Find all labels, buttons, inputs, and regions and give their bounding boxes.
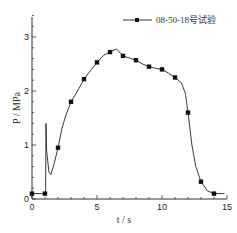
data-point-marker xyxy=(199,180,203,184)
line-chart: 0510150123 08-50-18号试验 t / s P / MPa xyxy=(0,0,237,233)
data-point-marker xyxy=(95,60,99,64)
x-tick-label: 10 xyxy=(157,202,167,212)
data-point-marker xyxy=(43,191,47,195)
legend-label: 08-50-18号试验 xyxy=(156,14,216,25)
x-tick-label: 0 xyxy=(29,202,34,212)
data-point-marker xyxy=(82,77,86,81)
y-axis-label: P / MPa xyxy=(11,92,22,124)
x-tick-label: 15 xyxy=(222,202,232,212)
legend-marker-icon xyxy=(135,18,139,22)
data-point-marker xyxy=(186,110,190,114)
y-tick-label: 1 xyxy=(24,140,29,150)
data-point-marker xyxy=(212,191,216,195)
data-point-marker xyxy=(108,50,112,54)
data-point-marker xyxy=(56,146,60,150)
y-tick-label: 3 xyxy=(24,32,29,42)
data-point-marker xyxy=(30,191,34,195)
data-point-marker xyxy=(173,75,177,79)
legend: 08-50-18号试验 xyxy=(123,14,216,25)
data-point-marker xyxy=(160,67,164,71)
data-point-marker xyxy=(147,65,151,69)
data-point-marker xyxy=(69,100,73,104)
plot-area xyxy=(30,49,225,196)
y-tick-label: 0 xyxy=(24,194,29,204)
data-point-marker xyxy=(134,58,138,62)
y-tick-label: 2 xyxy=(24,86,29,96)
data-point-marker xyxy=(121,54,125,58)
x-axis-label: t / s xyxy=(117,214,132,225)
series-line xyxy=(32,49,224,194)
x-tick-label: 5 xyxy=(94,202,99,212)
